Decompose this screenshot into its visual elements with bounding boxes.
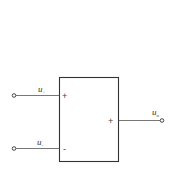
input-minus-label: u-	[37, 137, 44, 148]
op-amp-diagram: u+ + u- - uo +	[0, 0, 177, 181]
input-minus-sign: -	[63, 144, 66, 154]
output-sign: +	[108, 116, 113, 126]
input-plus-terminal	[12, 94, 16, 98]
input-plus-sign: +	[62, 91, 67, 101]
output-label: uo	[152, 107, 160, 118]
input-minus-terminal	[12, 147, 16, 151]
output-terminal	[160, 119, 164, 123]
input-plus-label: u+	[38, 84, 46, 95]
